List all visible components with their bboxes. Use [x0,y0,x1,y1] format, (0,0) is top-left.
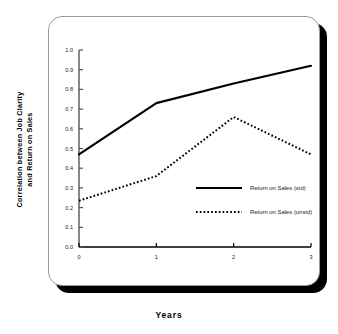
y-tick-label: 0.3 [65,185,73,191]
legend-label-0: Return on Sales (std) [250,185,306,191]
y-tick-label: 0.2 [65,205,73,211]
legend-label-1: Return on Sales (unstd) [250,209,312,215]
x-tick-label: 2 [232,254,235,260]
x-tick-label: 0 [77,254,80,260]
plot-area: 1.00.90.80.70.60.50.40.30.20.10.00123Ret… [48,16,320,286]
y-tick-label: 0.5 [65,146,73,152]
chart-figure: Correlation between Job Clarity and Retu… [0,0,338,334]
series-line-0 [79,66,311,155]
y-tick-label: 0.0 [65,244,73,250]
y-tick-label: 0.9 [65,67,73,73]
y-tick-label: 1.0 [65,47,73,53]
x-tick-label: 3 [309,254,312,260]
y-axis-title: Correlation between Job Clarity and Retu… [15,50,34,250]
y-tick-label: 0.7 [65,106,73,112]
y-tick-label: 0.4 [65,165,73,171]
y-tick-label: 0.8 [65,86,73,92]
x-axis-title: Years [0,310,338,320]
y-tick-label: 0.1 [65,224,73,230]
x-tick-label: 1 [155,254,158,260]
y-tick-label: 0.6 [65,126,73,132]
